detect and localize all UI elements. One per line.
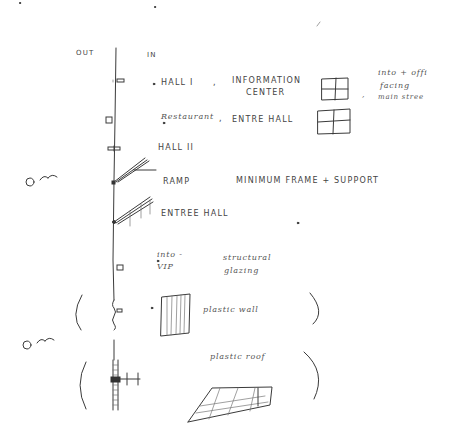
label-glazing: glazing [224, 266, 259, 275]
label-sep-1: , [213, 78, 217, 87]
opening-marker-restaurant [106, 117, 112, 123]
plastic-wall-sketch [161, 294, 190, 336]
label-center: CENTER [246, 88, 285, 97]
label-note-1: into + offi [378, 68, 428, 77]
label-plastic-wall: plastic wall [203, 305, 259, 314]
wavy-wall-segment [113, 300, 116, 330]
label-entree-hall: ENTREE HALL [161, 209, 229, 218]
label-restaurant: Restaurant [161, 112, 214, 121]
label-information: INFORMATION [232, 76, 301, 85]
label-entre-hall: ENTRE HALL [232, 115, 293, 124]
label-note-2: facing [380, 81, 410, 90]
label-ramp: RAMP [163, 177, 190, 186]
ladder-icon [111, 360, 140, 410]
right-paren-roof [304, 352, 319, 399]
right-paren-wall [310, 293, 319, 324]
main-wall-line [113, 48, 116, 300]
ramp-icon [112, 158, 156, 184]
label-note-3: main stree [378, 93, 424, 101]
label-sep-2: , [219, 114, 223, 123]
label-note-sep: , [362, 90, 365, 99]
label-minimum-frame: MINIMUM FRAME + SUPPORT [236, 176, 379, 185]
label-plastic-roof: plastic roof [210, 352, 265, 361]
section-drawing [0, 0, 452, 446]
label-into-vip-2: VIP [157, 262, 174, 271]
label-hall-1: HALL I [161, 78, 194, 87]
opening-marker-hall-1 [117, 79, 124, 82]
plastic-roof-sketch [188, 387, 272, 422]
label-structural: structural [223, 253, 271, 262]
label-in: IN [147, 51, 157, 59]
opening-marker-vip [117, 265, 123, 270]
label-into-vip-1: into - [157, 250, 183, 259]
label-hall-2: HALL II [158, 143, 194, 152]
left-paren-roof [80, 362, 86, 409]
window-sketch-information-center [322, 78, 348, 100]
window-sketch-entre-hall [318, 109, 350, 134]
label-out: OUT [76, 49, 95, 57]
left-paren-wall [76, 295, 82, 330]
opening-marker-wall [117, 309, 122, 312]
hole-punch-marks [23, 175, 57, 349]
entree-hall-stair-icon [113, 197, 154, 226]
